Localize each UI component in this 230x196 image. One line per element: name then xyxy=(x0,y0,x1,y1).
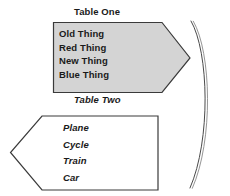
list-item: Old Thing xyxy=(59,27,109,41)
curved-arc-bracket[interactable] xyxy=(190,21,208,188)
list-item: New Thing xyxy=(59,54,109,68)
list-item: Train xyxy=(63,153,89,170)
list-item: Blue Thing xyxy=(59,68,109,82)
table-two-title: Table Two xyxy=(74,94,121,105)
list-item: Car xyxy=(63,170,89,187)
table-one-item-list: Old Thing Red Thing New Thing Blue Thing xyxy=(59,27,109,81)
list-item: Cycle xyxy=(63,137,89,154)
list-item: Plane xyxy=(63,120,89,137)
diagram-canvas: Table One Old Thing Red Thing New Thing … xyxy=(0,0,230,196)
list-item: Red Thing xyxy=(59,41,109,55)
table-one-title: Table One xyxy=(74,6,120,17)
table-two-item-list: Plane Cycle Train Car xyxy=(63,120,89,186)
